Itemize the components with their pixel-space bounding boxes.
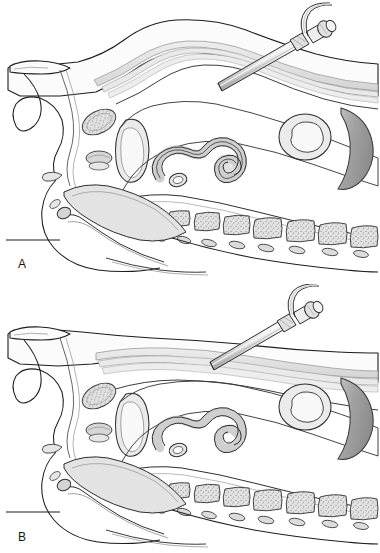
transverse-colon-cross-section [279, 114, 331, 160]
spinous-process [321, 247, 338, 257]
vertebral-body [318, 223, 347, 245]
labial-fold [42, 444, 62, 453]
panel-a-illustration [0, 0, 380, 280]
symphysis-pubis [55, 205, 72, 221]
panel-b-illustration [0, 284, 380, 553]
pubic-bone-small [48, 198, 62, 211]
spinous-process [257, 243, 274, 253]
vertebral-body [253, 490, 282, 511]
stopcock-valve[interactable] [306, 18, 338, 43]
sternum-cross-section [78, 104, 120, 140]
panel-label-a: A [18, 258, 26, 270]
vertebral-column [154, 483, 378, 531]
labial-fold [42, 172, 62, 181]
panel-label-b: B [18, 531, 26, 543]
midline-hollow-organ [116, 393, 150, 456]
transverse-colon-cross-section [279, 384, 331, 430]
spinous-process [288, 245, 305, 255]
midline-hollow-organ [116, 119, 150, 182]
vertebral-body [286, 492, 315, 514]
xiphoid-costal-margin [10, 327, 70, 340]
vertebral-body [350, 498, 378, 520]
vertebral-body [223, 487, 250, 507]
spinous-process [353, 521, 369, 530]
vertebral-column [154, 211, 378, 259]
spinous-process [321, 519, 338, 529]
crescent-solid-viscus [338, 108, 373, 189]
spinous-process [353, 249, 369, 258]
spinous-process [288, 517, 305, 527]
sternum-cross-section [78, 378, 120, 414]
spinous-process [228, 512, 245, 522]
intervertebral-disc-upper [86, 151, 112, 170]
vertebral-body [194, 484, 220, 503]
vertebral-body [350, 226, 378, 248]
spinous-process [257, 515, 274, 525]
panel-a: A [0, 0, 380, 280]
vertebral-body [223, 215, 250, 235]
vertebral-body [318, 495, 347, 517]
spinous-process [228, 240, 245, 250]
small-bowel-loop [152, 408, 246, 459]
vertebral-body [194, 212, 220, 231]
small-bowel-loop [152, 138, 246, 189]
peritoneal-cavity [118, 101, 378, 200]
stopcock-valve[interactable] [293, 299, 325, 324]
intervertebral-disc-upper [86, 423, 112, 442]
symphysis-pubis [55, 477, 72, 493]
vertebral-body [253, 218, 282, 239]
panel-b: B [0, 284, 380, 553]
peritoneal-cavity-outline [118, 101, 378, 200]
figure-page: A [0, 0, 380, 553]
vertebral-body [286, 220, 315, 242]
pubic-bone-small [48, 470, 62, 483]
